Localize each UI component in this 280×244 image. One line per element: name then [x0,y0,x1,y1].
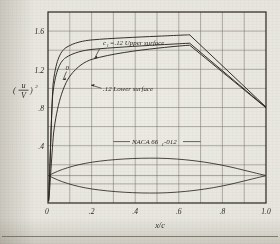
annotation-upper-symbol: c [103,39,106,46]
y-axis-exponent: 2 [35,84,38,89]
y-tick-3: .8 [38,104,44,113]
x-tick-2: .2 [89,207,95,216]
y-axis-tick-labels: 1.6 1.2 .8 .4 [35,27,45,151]
y-axis-numerator: u [21,81,25,90]
curve-upper-surface [49,35,266,200]
y-axis-denominator: V [21,91,27,100]
x-axis-label: x/c [154,221,165,230]
annotation-upper-text: =.12 Upper surface [110,39,165,46]
section-label-name: NACA 66 [131,138,159,145]
figure-page: 1.6 1.2 .8 .4 ( u V ) 2 0 .2 .4 .6 .8 1.… [0,0,280,244]
x-tick-6: 1.0 [261,207,271,216]
x-tick-4: .6 [176,207,182,216]
velocity-curves [49,35,266,202]
section-label-tail: -012 [164,138,177,145]
annotation-lower-surface: .12 Lower surface [91,84,153,91]
page-bottom-rule [2,236,278,237]
x-tick-5: .8 [220,207,226,216]
x-tick-3: .4 [132,207,138,216]
annotation-zero-label: 0 [66,64,70,71]
velocity-distribution-chart: 1.6 1.2 .8 .4 ( u V ) 2 0 .2 .4 .6 .8 1.… [0,0,280,244]
curve-zero-lift [49,43,266,201]
y-axis-paren-close: ) [29,86,33,95]
y-tick-2: 1.2 [35,66,45,75]
annotation-lower-text: .12 Lower surface [103,85,153,92]
y-tick-4: .4 [38,142,44,151]
x-axis-tick-labels: 0 .2 .4 .6 .8 1.0 [45,207,271,216]
y-axis-label: ( u V ) 2 [13,81,38,101]
curve-lower-surface [49,45,266,201]
y-axis-paren-open: ( [13,86,17,95]
y-tick-1: 1.6 [35,27,45,36]
x-tick-1: 0 [45,207,49,216]
